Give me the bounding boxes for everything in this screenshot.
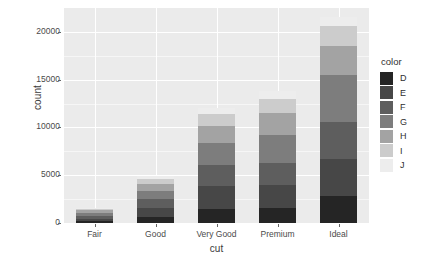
y-tick-label: 20000 [16,27,60,36]
legend-item-D[interactable]: D [380,71,432,86]
bar-ideal[interactable] [320,17,358,223]
x-tick-label: Very Good [196,229,236,239]
bar-segment-D[interactable] [137,217,175,223]
x-tick-label: Premium [260,229,294,239]
stacked-bar-chart: count 05000100001500020000 FairGoodVery … [0,0,433,270]
y-tick-label: 15000 [16,75,60,84]
grid-line-vertical [95,8,96,223]
bar-segment-D[interactable] [76,221,114,223]
bar-fair[interactable] [76,208,114,223]
legend-label-F: F [400,102,406,112]
x-tick-mark [339,224,340,227]
legend-title: color [380,56,432,67]
bar-segment-I[interactable] [320,26,358,46]
bar-premium[interactable] [259,91,297,223]
x-tick-label: Good [145,229,166,239]
bar-segment-F[interactable] [198,165,236,186]
bar-segment-E[interactable] [137,208,175,217]
legend-swatch-J [380,159,393,172]
bar-good[interactable] [137,176,175,223]
legend-item-J[interactable]: J [380,158,432,173]
bar-segment-G[interactable] [320,75,358,122]
bar-segment-I[interactable] [259,99,297,113]
bar-segment-E[interactable] [198,186,236,209]
x-axis-title: cut [64,243,369,254]
bar-very-good[interactable] [198,108,236,223]
y-tick-label: 0 [16,218,60,227]
legend-label-H: H [400,131,407,141]
legend-swatch-F [380,101,393,114]
legend-swatch-H [380,130,393,143]
x-tick-mark [156,224,157,227]
legend-label-G: G [400,117,407,127]
x-tick-label: Ideal [329,229,347,239]
legend-label-D: D [400,73,407,83]
bar-segment-F[interactable] [320,122,358,159]
bar-segment-F[interactable] [137,199,175,208]
x-tick-mark [95,224,96,227]
y-tick-mark [58,127,61,128]
x-tick-label: Fair [87,229,102,239]
bar-segment-E[interactable] [259,185,297,207]
legend-label-E: E [400,88,406,98]
y-tick-mark [58,32,61,33]
y-tick-label: 10000 [16,122,60,131]
bar-segment-G[interactable] [259,135,297,163]
legend-swatch-G [380,115,393,128]
y-tick-mark [58,80,61,81]
bar-segment-I[interactable] [198,114,236,126]
legend-entries: DEFGHIJ [380,71,432,173]
legend-item-I[interactable]: I [380,144,432,159]
legend-swatch-E [380,86,393,99]
x-tick-mark [217,224,218,227]
bar-segment-G[interactable] [198,143,236,165]
legend: color DEFGHIJ [380,56,432,173]
bar-segment-H[interactable] [259,113,297,136]
bar-segment-J[interactable] [259,91,297,99]
legend-swatch-I [380,144,393,157]
legend-item-E[interactable]: E [380,86,432,101]
x-tick-mark [278,224,279,227]
plot-panel [64,8,369,223]
bar-segment-D[interactable] [198,209,236,223]
bar-segment-D[interactable] [259,208,297,223]
bar-segment-H[interactable] [320,46,358,76]
legend-item-H[interactable]: H [380,129,432,144]
y-axis-ticks: 05000100001500020000 [12,0,60,270]
legend-swatch-D [380,72,393,85]
y-tick-mark [58,223,61,224]
bar-segment-J[interactable] [320,17,358,26]
bar-segment-H[interactable] [137,184,175,191]
bar-segment-D[interactable] [320,196,358,223]
y-tick-mark [58,175,61,176]
bar-segment-G[interactable] [137,191,175,199]
legend-label-J: J [400,160,405,170]
bar-segment-F[interactable] [259,163,297,185]
bar-segment-E[interactable] [320,159,358,196]
legend-item-F[interactable]: F [380,100,432,115]
bar-segment-H[interactable] [198,126,236,143]
y-tick-label: 5000 [16,170,60,179]
legend-item-G[interactable]: G [380,115,432,130]
legend-label-I: I [400,146,403,156]
